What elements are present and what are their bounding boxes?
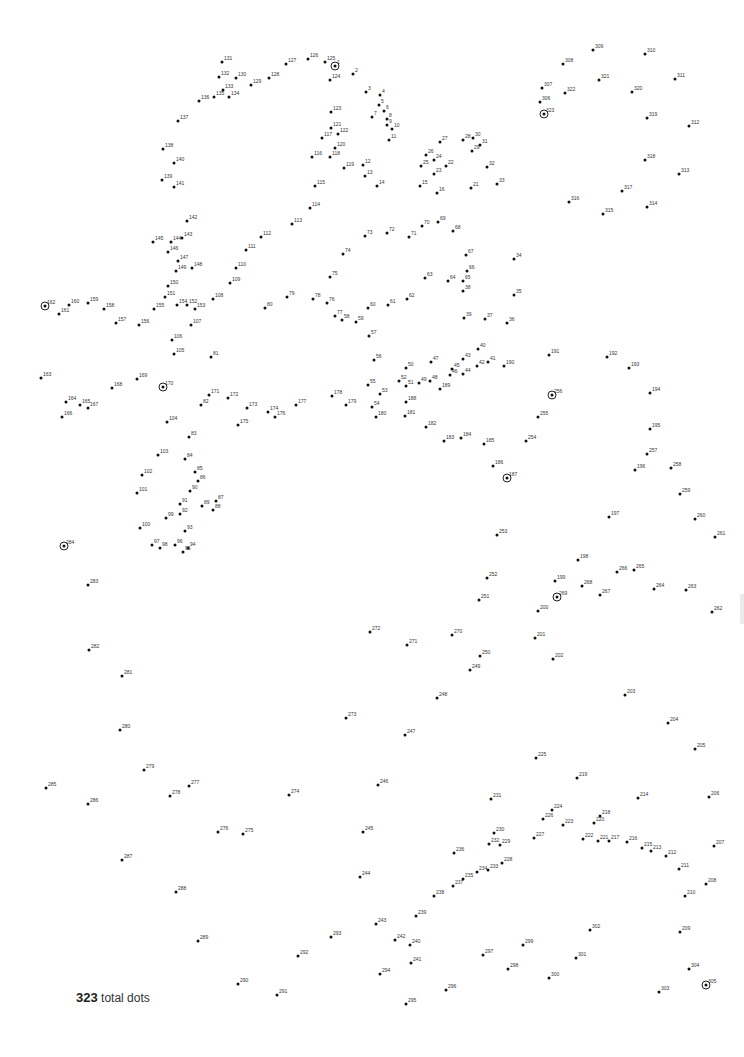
dot-number-label: 122 <box>340 128 348 133</box>
dot-number-label: 177 <box>298 399 306 404</box>
dot-number-label: 27 <box>442 136 448 141</box>
dot-number-label: 263 <box>688 584 696 589</box>
dot-number-label: 103 <box>160 449 168 454</box>
dot-number-label: 120 <box>337 142 345 147</box>
dot-number-label: 72 <box>389 227 395 232</box>
dot-number-label: 224 <box>554 804 562 809</box>
dot-number-label: 257 <box>649 448 657 453</box>
dot-number-label: 241 <box>413 957 421 962</box>
dot-number-label: 187 <box>509 472 517 477</box>
dot-number-label: 188 <box>408 396 416 401</box>
dot-number-label: 302 <box>592 924 600 929</box>
dot-number-label: 28 <box>465 134 471 139</box>
dot-number-label: 226 <box>545 813 553 818</box>
dot-number-label: 135 <box>216 91 224 96</box>
dot-number-label: 54 <box>374 401 380 406</box>
dot-number-label: 300 <box>551 972 559 977</box>
dot-number-label: 320 <box>634 86 642 91</box>
dot-number-label: 114 <box>312 202 320 207</box>
dot-number-label: 79 <box>289 291 295 296</box>
dot-number-label: 202 <box>555 653 563 658</box>
dot-number-label: 6 <box>386 105 389 110</box>
dot-number-label: 123 <box>333 106 341 111</box>
dot-number-label: 298 <box>510 963 518 968</box>
dot-number-label: 154 <box>179 299 187 304</box>
dot-number-label: 64 <box>450 275 456 280</box>
dot-number-label: 5 <box>381 99 384 104</box>
dot-number-label: 30 <box>475 132 481 137</box>
dot-number-label: 282 <box>91 644 99 649</box>
dot-number-label: 144 <box>173 236 181 241</box>
dot-number-label: 49 <box>421 377 427 382</box>
dot-number-label: 84 <box>187 453 193 458</box>
dot-number-label: 62 <box>409 293 415 298</box>
dot-number-label: 295 <box>408 998 416 1003</box>
dot-number-label: 304 <box>691 963 699 968</box>
dot-number-label: 15 <box>422 180 428 185</box>
dot-number-label: 323 <box>546 108 554 113</box>
dot-number-label: 201 <box>537 632 545 637</box>
dot-number-label: 261 <box>717 531 725 536</box>
dot-number-label: 77 <box>337 310 343 315</box>
dot-number-label: 97 <box>154 539 160 544</box>
dot-number-label: 207 <box>716 840 724 845</box>
dot-number-label: 265 <box>636 564 644 569</box>
dot-number-label: 73 <box>367 230 373 235</box>
dot-number-label: 287 <box>124 854 132 859</box>
dot-number-label: 232 <box>491 838 499 843</box>
dot-number-label: 155 <box>156 303 164 308</box>
dot-number-label: 268 <box>584 580 592 585</box>
dot-number-label: 264 <box>656 583 664 588</box>
dot-number-label: 186 <box>495 460 503 465</box>
dot-number-label: 279 <box>146 764 154 769</box>
dot-number-label: 159 <box>90 297 98 302</box>
dot-number-label: 274 <box>291 789 299 794</box>
dot-number-label: 106 <box>174 334 182 339</box>
dot-number-label: 183 <box>446 435 454 440</box>
dot-number-label: 171 <box>211 389 219 394</box>
dot-number-label: 281 <box>124 670 132 675</box>
dot-number-label: 61 <box>390 299 396 304</box>
dot-number-label: 286 <box>90 798 98 803</box>
dot-number-label: 169 <box>139 373 147 378</box>
dot-number-label: 117 <box>324 132 332 137</box>
dot-number-label: 290 <box>240 978 248 983</box>
dot-number-label: 185 <box>486 438 494 443</box>
dot-number-label: 222 <box>585 833 593 838</box>
dot-number-label: 208 <box>708 878 716 883</box>
dot-number-label: 216 <box>629 836 637 841</box>
dot-number-label: 145 <box>155 236 163 241</box>
dot-number-label: 206 <box>711 791 719 796</box>
dot-number-label: 31 <box>482 139 488 144</box>
dot-number-label: 32 <box>489 161 495 166</box>
dot-number-label: 21 <box>473 182 479 187</box>
dot-number-label: 269 <box>559 591 567 596</box>
dot-number-label: 292 <box>300 950 308 955</box>
dot-number-label: 200 <box>540 605 548 610</box>
dot-number-label: 309 <box>595 44 603 49</box>
dot-number-label: 42 <box>479 360 485 365</box>
dot-number-label: 176 <box>277 411 285 416</box>
dot-number-label: 127 <box>288 58 296 63</box>
dot-number-label: 148 <box>194 262 202 267</box>
dot-number-label: 125 <box>327 56 335 61</box>
dot-number-label: 119 <box>346 162 354 167</box>
dot-number-label: 210 <box>687 890 695 895</box>
dot-number-label: 297 <box>485 949 493 954</box>
dot-number-label: 161 <box>61 308 69 313</box>
dot-number-label: 67 <box>468 249 474 254</box>
total-dots-suffix: total dots <box>101 991 150 1005</box>
dot-number-label: 305 <box>708 979 716 984</box>
dot-number-label: 271 <box>409 639 417 644</box>
dot-number-label: 228 <box>504 857 512 862</box>
dot-number-label: 147 <box>180 255 188 260</box>
dot-number-label: 112 <box>263 231 271 236</box>
dot-number-label: 50 <box>408 362 414 367</box>
dot-number-label: 85 <box>197 466 203 471</box>
dot-number-label: 132 <box>221 71 229 76</box>
dot-number-label: 217 <box>611 835 619 840</box>
dot-number-label: 249 <box>472 664 480 669</box>
dot-number-label: 158 <box>106 303 114 308</box>
dot-number-label: 223 <box>565 819 573 824</box>
dot-number-label: 150 <box>170 280 178 285</box>
